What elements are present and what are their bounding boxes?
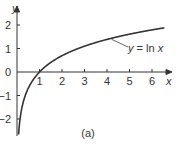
y-tick-label: 2 xyxy=(5,19,11,31)
curve-label-leader xyxy=(112,39,129,47)
x-tick-label: 3 xyxy=(81,75,87,87)
axes xyxy=(15,6,173,136)
y-tick-label: −1 xyxy=(0,90,11,102)
curve-label-eq: = ln xyxy=(134,42,158,54)
x-tick-label: 6 xyxy=(149,75,155,87)
y-tick-label: −2 xyxy=(0,113,11,125)
figure-caption: (a) xyxy=(81,127,94,139)
ln-chart: 123456−2−1012 y x y = ln x (a) xyxy=(0,0,176,147)
y-tick-label: 1 xyxy=(5,43,11,55)
x-tick-label: 1 xyxy=(36,75,42,87)
x-tick-label: 2 xyxy=(59,75,65,87)
y-tick-label: 0 xyxy=(5,66,11,78)
x-axis-label: x xyxy=(165,75,172,87)
curve-label-x: x xyxy=(157,42,164,54)
curve-label: y = ln x xyxy=(127,42,164,54)
x-tick-label: 5 xyxy=(126,75,132,87)
x-tick-label: 4 xyxy=(104,75,110,87)
x-axis-arrow-icon xyxy=(166,70,172,75)
